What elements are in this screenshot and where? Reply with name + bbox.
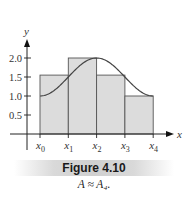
x-axis-arrow-icon bbox=[166, 131, 174, 137]
riemann-rectangle bbox=[68, 58, 96, 134]
x-tick-label: x3 bbox=[120, 139, 130, 154]
x-tick-label: x1 bbox=[63, 139, 73, 154]
y-tick-label: 0.5 bbox=[9, 110, 22, 121]
riemann-rectangle bbox=[97, 75, 125, 134]
x-tick-label: x4 bbox=[148, 139, 158, 154]
figure-caption-bar: Figure 4.10 bbox=[14, 160, 174, 176]
figure-title: Figure 4.10 bbox=[62, 161, 125, 175]
y-tick-label: 2.0 bbox=[9, 53, 22, 64]
riemann-rectangle bbox=[125, 96, 153, 134]
y-tick-label: 1.0 bbox=[9, 91, 22, 102]
riemann-rectangles bbox=[40, 58, 153, 134]
y-axis-label: y bbox=[23, 25, 29, 37]
riemann-sum-chart: x y 0.51.01.52.0 x0x1x2x3x4 bbox=[0, 0, 188, 158]
x-axis-label: x bbox=[176, 128, 182, 140]
y-tick-label: 1.5 bbox=[9, 72, 22, 83]
figure-caption-text: A ≈ A₄. bbox=[0, 178, 188, 190]
riemann-rectangle bbox=[40, 75, 68, 134]
y-ticks: 0.51.01.52.0 bbox=[9, 53, 31, 121]
x-ticks: x0x1x2x3x4 bbox=[35, 134, 158, 154]
x-tick-label: x0 bbox=[35, 139, 45, 154]
x-tick-label: x2 bbox=[92, 139, 102, 154]
y-axis-arrow-icon bbox=[24, 39, 30, 47]
